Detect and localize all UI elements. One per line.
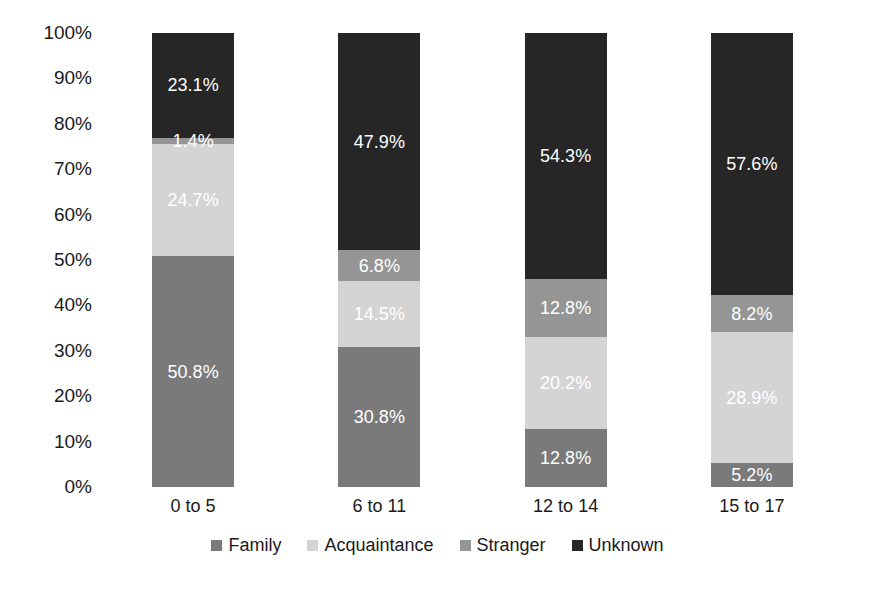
y-axis-tick: 70%	[0, 159, 92, 178]
y-axis-tick: 50%	[0, 250, 92, 269]
bar-segment[interactable]: 14.5%	[338, 281, 420, 347]
stacked-bar-chart: 0%10%20%30%40%50%60%70%80%90%100% 50.8%2…	[0, 0, 875, 600]
x-axis-tick: 0 to 5	[118, 495, 268, 517]
bar-segment-label: 28.9%	[726, 389, 777, 407]
bar-segment[interactable]: 47.9%	[338, 33, 420, 250]
plot-area: 50.8%24.7%1.4%23.1%30.8%14.5%6.8%47.9%12…	[100, 33, 845, 487]
chart-legend: FamilyAcquaintanceStrangerUnknown	[0, 535, 875, 555]
legend-item[interactable]: Stranger	[460, 535, 546, 555]
bar-group[interactable]: 30.8%14.5%6.8%47.9%	[338, 33, 420, 487]
bar-group[interactable]: 12.8%20.2%12.8%54.3%	[525, 33, 607, 487]
legend-swatch-icon	[460, 540, 471, 551]
legend-label: Unknown	[589, 535, 664, 555]
bar-segment-label: 24.7%	[168, 191, 219, 209]
bar-segment[interactable]: 57.6%	[711, 33, 793, 295]
bar-segment[interactable]: 28.9%	[711, 332, 793, 463]
legend-label: Acquaintance	[324, 535, 433, 555]
clipped-caption	[18, 588, 858, 596]
bar-segment-label: 54.3%	[540, 147, 591, 165]
y-axis-tick: 90%	[0, 68, 92, 87]
y-axis-tick: 0%	[0, 477, 92, 496]
x-axis-tick: 6 to 11	[304, 495, 454, 517]
bar-segment-label: 8.2%	[731, 305, 772, 323]
bar-segment-label: 50.8%	[168, 363, 219, 381]
legend-item[interactable]: Unknown	[572, 535, 664, 555]
bar-segment-label: 20.2%	[540, 374, 591, 392]
bar-group[interactable]: 50.8%24.7%1.4%23.1%	[152, 33, 234, 487]
legend-item[interactable]: Acquaintance	[307, 535, 433, 555]
bar-segment[interactable]: 12.8%	[525, 429, 607, 487]
bar-segment-label: 5.2%	[731, 466, 772, 484]
bar-segment[interactable]: 23.1%	[152, 33, 234, 138]
bar-segment-label: 57.6%	[726, 155, 777, 173]
legend-swatch-icon	[307, 540, 318, 551]
legend-label: Stranger	[477, 535, 546, 555]
y-axis: 0%10%20%30%40%50%60%70%80%90%100%	[0, 33, 92, 487]
bar-group[interactable]: 5.2%28.9%8.2%57.6%	[711, 33, 793, 487]
bar-series-container: 50.8%24.7%1.4%23.1%30.8%14.5%6.8%47.9%12…	[100, 33, 845, 487]
bar-segment-label: 12.8%	[540, 299, 591, 317]
bar-segment-label: 1.4%	[173, 132, 214, 150]
y-axis-tick: 10%	[0, 432, 92, 451]
x-axis-tick: 12 to 14	[491, 495, 641, 517]
bar-segment[interactable]: 30.8%	[338, 347, 420, 487]
bar-segment-label: 47.9%	[354, 133, 405, 151]
bar-segment[interactable]: 12.8%	[525, 279, 607, 337]
y-axis-tick: 30%	[0, 341, 92, 360]
bar-segment-label: 23.1%	[168, 76, 219, 94]
x-axis: 0 to 56 to 1112 to 1415 to 17	[100, 495, 845, 521]
bar-segment[interactable]: 8.2%	[711, 295, 793, 332]
bar-segment[interactable]: 1.4%	[152, 138, 234, 144]
legend-item[interactable]: Family	[211, 535, 281, 555]
y-axis-tick: 100%	[0, 23, 92, 42]
bar-segment[interactable]: 6.8%	[338, 250, 420, 281]
y-axis-tick: 20%	[0, 386, 92, 405]
y-axis-tick: 60%	[0, 205, 92, 224]
legend-swatch-icon	[572, 540, 583, 551]
bar-segment-label: 30.8%	[354, 408, 405, 426]
bar-segment-label: 12.8%	[540, 449, 591, 467]
x-axis-tick: 15 to 17	[677, 495, 827, 517]
bar-segment-label: 14.5%	[354, 305, 405, 323]
bar-segment[interactable]: 54.3%	[525, 33, 607, 279]
bar-segment-label: 6.8%	[359, 257, 400, 275]
y-axis-tick: 80%	[0, 114, 92, 133]
legend-swatch-icon	[211, 540, 222, 551]
bar-segment[interactable]: 5.2%	[711, 463, 793, 487]
bar-segment[interactable]: 50.8%	[152, 256, 234, 487]
y-axis-tick: 40%	[0, 295, 92, 314]
bar-segment[interactable]: 20.2%	[525, 337, 607, 429]
bar-segment[interactable]: 24.7%	[152, 144, 234, 256]
legend-label: Family	[228, 535, 281, 555]
